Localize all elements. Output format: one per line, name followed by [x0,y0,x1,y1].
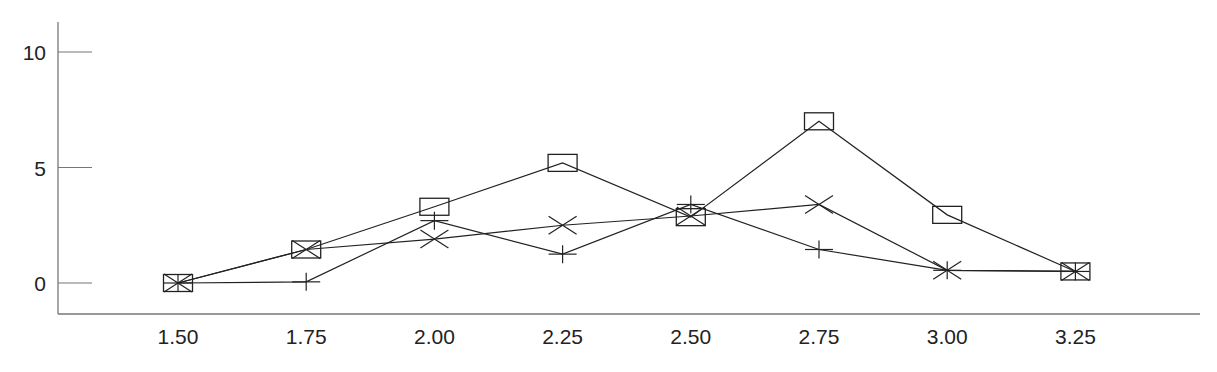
plus-marker-icon [292,273,320,291]
x-marker-icon [420,230,448,248]
x-tick-label: 1.50 [158,325,199,348]
x-tick-label: 2.00 [414,325,455,348]
plus-marker-icon [677,195,705,213]
x-marker-icon [292,241,320,259]
plus-marker-icon [420,212,448,230]
x-tick-label: 2.50 [670,325,711,348]
x-tick-label: 3.00 [927,325,968,348]
x-axis-ticks: 1.501.752.002.252.502.753.003.25 [158,325,1096,348]
x-series-line [178,204,1075,283]
x-tick-label: 2.25 [542,325,583,348]
x-tick-label: 2.75 [799,325,840,348]
series-lines [178,121,1075,283]
y-axis-ticks: 0510 [23,41,92,295]
y-tick-label: 0 [34,272,46,295]
y-tick-label: 5 [34,157,46,180]
x-tick-label: 3.25 [1055,325,1096,348]
square-series-line [178,121,1075,283]
x-marker-icon [549,216,577,234]
x-tick-label: 1.75 [286,325,327,348]
plus-series-line [178,204,1075,283]
y-tick-label: 10 [23,41,46,64]
series-markers [164,113,1090,292]
line-chart: 0510 1.501.752.002.252.502.753.003.25 [0,0,1217,372]
plus-marker-icon [549,245,577,263]
x-marker-icon [805,195,833,213]
plus-marker-icon [805,241,833,259]
